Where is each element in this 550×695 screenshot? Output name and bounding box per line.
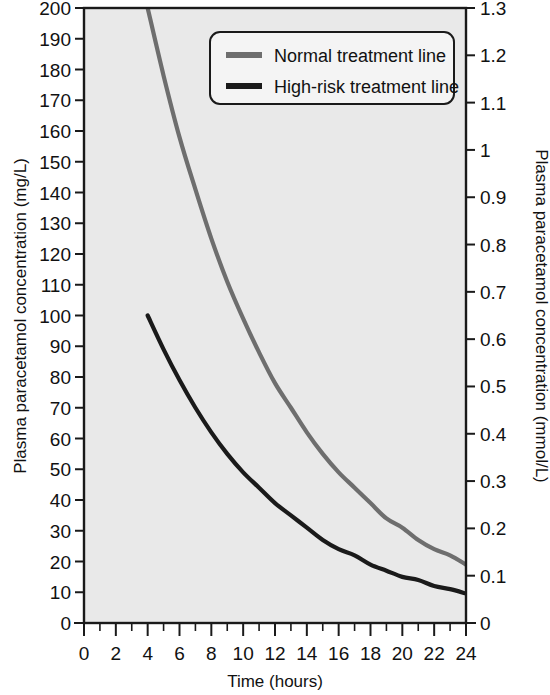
y-axis-left-tick-label: 140 <box>39 183 71 204</box>
x-axis-tick-label: 0 <box>79 643 90 664</box>
paracetamol-nomogram-chart: 0102030405060708090100110120130140150160… <box>0 0 550 695</box>
y-axis-left-tick-label: 100 <box>39 306 71 327</box>
chart-canvas: 0102030405060708090100110120130140150160… <box>0 0 550 695</box>
x-axis-tick-label: 10 <box>233 643 254 664</box>
y-axis-right-tick-label: 1.3 <box>480 0 506 19</box>
y-axis-right-tick-label: 0.1 <box>480 566 506 587</box>
y-axis-left-tick-label: 130 <box>39 213 71 234</box>
x-axis-tick-label: 12 <box>264 643 285 664</box>
y-axis-right-tick-label: 0.9 <box>480 187 506 208</box>
y-axis-left-tick-label: 40 <box>50 490 71 511</box>
x-axis-tick-label: 8 <box>206 643 217 664</box>
y-axis-right-ticks <box>466 8 475 623</box>
y-axis-left-tick-label: 80 <box>50 367 71 388</box>
x-axis-tick-label: 2 <box>111 643 122 664</box>
legend-label-high-risk-treatment-line: High-risk treatment line <box>274 77 459 97</box>
y-axis-right-tick-label: 0.5 <box>480 376 506 397</box>
y-axis-left-ticks <box>75 8 84 623</box>
x-axis-title: Time (hours) <box>227 672 323 691</box>
y-axis-left-tick-label: 120 <box>39 244 71 265</box>
x-axis-tick-label: 6 <box>174 643 185 664</box>
y-axis-left-tick-label: 20 <box>50 552 71 573</box>
x-axis-tick-label: 24 <box>455 643 477 664</box>
y-axis-left-tick-label: 110 <box>41 275 71 296</box>
y-axis-right-tick-label: 0.8 <box>480 235 506 256</box>
y-axis-left-tick-label: 90 <box>50 336 71 357</box>
y-axis-left-tick-label: 200 <box>39 0 71 19</box>
x-axis-tick-labels: 024681012141618202224 <box>79 643 477 664</box>
y-axis-left-tick-label: 10 <box>50 582 71 603</box>
x-axis-ticks <box>74 623 476 636</box>
x-axis-tick-label: 14 <box>296 643 318 664</box>
y-axis-left-tick-label: 30 <box>50 521 71 542</box>
y-axis-right-tick-label: 0.7 <box>480 282 506 303</box>
y-axis-left-tick-label: 160 <box>39 121 71 142</box>
legend-label-normal-treatment-line: Normal treatment line <box>274 46 446 66</box>
y-axis-left-tick-label: 150 <box>39 152 71 173</box>
y-axis-right-tick-labels: 00.10.20.30.40.50.60.70.80.911.11.21.3 <box>480 0 507 634</box>
y-axis-left-tick-label: 60 <box>50 429 71 450</box>
x-axis-tick-label: 4 <box>142 643 153 664</box>
y-axis-right-tick-label: 0 <box>480 613 491 634</box>
y-axis-right-tick-label: 0.6 <box>480 329 506 350</box>
y-axis-left-tick-label: 190 <box>39 29 71 50</box>
y-axis-left-tick-label: 0 <box>60 613 71 634</box>
y-axis-left-tick-label: 180 <box>39 60 71 81</box>
x-axis-tick-label: 20 <box>392 643 413 664</box>
x-axis-tick-label: 22 <box>424 643 445 664</box>
chart-legend: Normal treatment line High-risk treatmen… <box>210 32 459 104</box>
y-axis-right-tick-label: 0.2 <box>480 518 506 539</box>
y-axis-left-title: Plasma paracetamol concentration (mg/L) <box>11 158 30 474</box>
y-axis-right-title: Plasma paracetamol concentration (mmol/L… <box>532 149 550 483</box>
y-axis-left-tick-label: 50 <box>50 459 71 480</box>
y-axis-right-tick-label: 1 <box>480 140 491 161</box>
y-axis-left-tick-label: 70 <box>50 398 71 419</box>
y-axis-left-tick-label: 170 <box>39 90 71 111</box>
y-axis-right-tick-label: 0.3 <box>480 471 506 492</box>
y-axis-right-tick-label: 0.4 <box>480 424 507 445</box>
y-axis-left-tick-labels: 0102030405060708090100110120130140150160… <box>39 0 71 634</box>
y-axis-right-tick-label: 1.2 <box>480 45 506 66</box>
x-axis-tick-label: 18 <box>360 643 381 664</box>
x-axis-tick-label: 16 <box>328 643 349 664</box>
y-axis-right-tick-label: 1.1 <box>480 93 506 114</box>
